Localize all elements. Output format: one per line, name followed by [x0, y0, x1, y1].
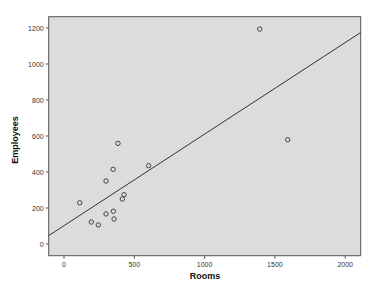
y-tick-label: 600 — [32, 133, 44, 140]
y-tick-label: 1200 — [28, 25, 44, 32]
plot-area — [49, 17, 361, 256]
y-tick-label: 200 — [32, 205, 44, 212]
x-tick-label: 0 — [62, 261, 66, 268]
scatter-chart: 020040060080010001200 0500100015002000 E… — [0, 0, 380, 294]
y-axis: 020040060080010001200 — [28, 25, 49, 248]
x-axis: 0500100015002000 — [62, 256, 353, 268]
x-tick-label: 2000 — [337, 261, 353, 268]
y-axis-title: Employees — [10, 116, 20, 164]
y-tick-label: 1000 — [28, 61, 44, 68]
x-axis-title: Rooms — [190, 271, 221, 281]
x-tick-label: 1000 — [197, 261, 213, 268]
y-tick-label: 800 — [32, 97, 44, 104]
y-tick-label: 0 — [40, 241, 44, 248]
x-tick-label: 500 — [128, 261, 140, 268]
x-tick-label: 1500 — [267, 261, 283, 268]
y-tick-label: 400 — [32, 169, 44, 176]
